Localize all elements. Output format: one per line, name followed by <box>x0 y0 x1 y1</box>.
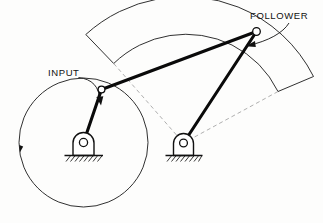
input-leader-curve <box>79 78 101 102</box>
input-annotation: INPUT <box>48 67 103 106</box>
sector-radial-end-right <box>278 77 314 92</box>
right-bearing-hole <box>180 139 188 147</box>
follower-link <box>184 32 257 144</box>
mechanism-diagram: INPUT FOLLOWER <box>0 0 323 223</box>
follower-pin-joint <box>253 28 261 36</box>
follower-swing-sector <box>86 0 314 143</box>
coupler-link <box>102 32 257 90</box>
right-ground-pivot <box>166 134 203 162</box>
follower-label: FOLLOWER <box>250 10 308 21</box>
left-ground-pivot <box>65 133 104 162</box>
sector-radial-dashed-left <box>114 64 184 144</box>
rotation-direction-arrow <box>19 145 23 153</box>
sector-radial-dashed-right <box>184 92 279 144</box>
crank-pin-joint <box>98 86 105 93</box>
right-ground-hatching <box>167 156 202 162</box>
mechanism-canvas: INPUT FOLLOWER <box>0 0 323 223</box>
linkage-links <box>84 32 257 144</box>
sector-radial-end-left <box>86 35 114 64</box>
left-ground-hatching <box>66 156 102 162</box>
input-label: INPUT <box>48 67 80 78</box>
left-bearing-hole <box>79 138 87 146</box>
